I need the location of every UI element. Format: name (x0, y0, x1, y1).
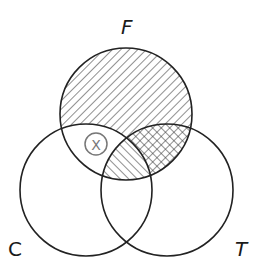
set-label-f: F (121, 17, 133, 37)
set-label-t: T (235, 239, 247, 259)
x-marker-icon: X (85, 133, 107, 155)
set-label-c: C (8, 239, 22, 259)
venn-diagram: X (0, 0, 263, 274)
marker-symbol: X (91, 137, 101, 153)
